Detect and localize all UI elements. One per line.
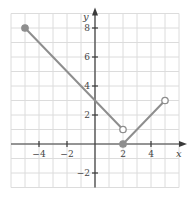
x-axis-label: x [176, 148, 182, 159]
closed-endpoint [22, 25, 28, 31]
open-endpoint [162, 97, 168, 103]
segment-1-line [25, 28, 123, 130]
x-axis-arrow-icon [179, 141, 187, 147]
y-tick-label: 2 [84, 110, 90, 120]
x-tick-label: 2 [120, 149, 126, 159]
y-axis-arrow-icon [92, 8, 98, 16]
y-tick-label: 6 [84, 52, 90, 62]
y-tick-label: 8 [84, 23, 90, 33]
piecewise-function-graph: −4−224−22468 x y [0, 0, 191, 199]
open-endpoint [120, 126, 126, 132]
y-axis-label: y [82, 11, 89, 22]
axes [11, 8, 187, 188]
y-tick-label: −2 [77, 168, 90, 178]
x-tick-label: 4 [148, 149, 154, 159]
x-tick-label: −2 [60, 149, 73, 159]
x-tick-label: −4 [32, 149, 46, 159]
segment-2-line [123, 101, 165, 145]
closed-endpoint [120, 141, 126, 147]
